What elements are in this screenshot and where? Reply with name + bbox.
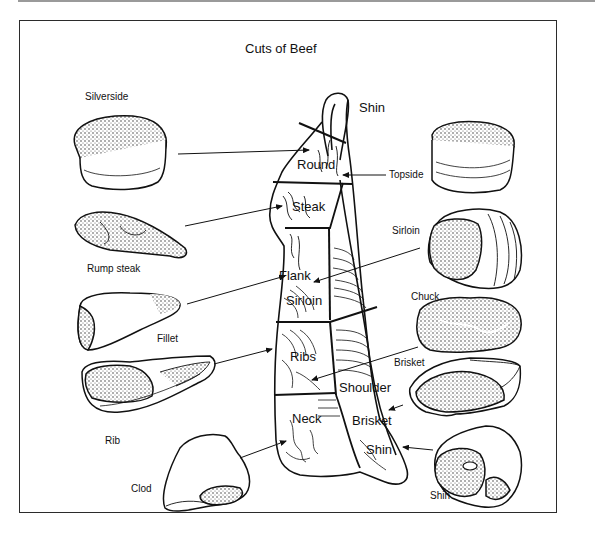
region-label-shin-hind: Shin bbox=[359, 101, 385, 114]
arrow-silverside bbox=[178, 150, 309, 154]
region-label-ribs: Ribs bbox=[290, 350, 316, 363]
sirloin-cut-drawing bbox=[428, 209, 521, 288]
chuck-cut-drawing bbox=[417, 298, 521, 353]
clod-cut-drawing bbox=[163, 435, 249, 512]
cut-label-fillet: Fillet bbox=[157, 334, 178, 344]
arrow-brisket bbox=[389, 405, 403, 410]
rump-steak-cut-drawing bbox=[75, 212, 187, 257]
cut-label-sirloin: Sirloin bbox=[392, 226, 420, 236]
diagram-title: Cuts of Beef bbox=[245, 42, 317, 55]
cut-label-clod: Clod bbox=[131, 484, 152, 494]
region-label-shin-fore: Shin bbox=[366, 443, 392, 456]
cut-label-rump-steak: Rump steak bbox=[87, 264, 140, 274]
rib-cut-drawing bbox=[82, 356, 215, 412]
cut-label-silverside: Silverside bbox=[85, 92, 128, 102]
cut-label-chuck: Chuck bbox=[411, 292, 439, 302]
brisket-cut-drawing bbox=[410, 358, 521, 416]
cut-label-brisket: Brisket bbox=[394, 358, 425, 368]
region-label-brisket: Brisket bbox=[352, 414, 392, 427]
arrow-rib bbox=[214, 349, 272, 364]
region-label-round: Round bbox=[297, 158, 335, 171]
cut-label-shin: Shin bbox=[430, 491, 450, 501]
silverside-cut-drawing bbox=[74, 116, 166, 190]
region-label-flank: Flank bbox=[279, 269, 311, 282]
arrow-shin bbox=[403, 447, 433, 450]
region-label-neck: Neck bbox=[292, 412, 322, 425]
topside-cut-drawing bbox=[432, 122, 514, 193]
cut-label-topside: Topside bbox=[389, 170, 423, 180]
region-label-shoulder: Shoulder bbox=[339, 381, 391, 394]
region-label-steak: Steak bbox=[292, 200, 325, 213]
arrow-rump-steak bbox=[185, 206, 282, 226]
arrow-fillet bbox=[187, 276, 285, 304]
cut-label-rib: Rib bbox=[105, 436, 120, 446]
region-label-sirloin: Sirloin bbox=[286, 294, 322, 307]
